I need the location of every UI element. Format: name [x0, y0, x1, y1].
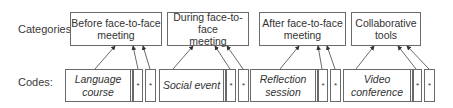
- arrow-language-course: [95, 46, 115, 69]
- code-line1: Reflection: [260, 73, 307, 86]
- arrow-star-3b: [327, 46, 335, 69]
- code-line2: session: [265, 86, 301, 99]
- category-line1: Collaborative: [355, 17, 416, 29]
- arrow-star-4a: [398, 46, 416, 69]
- code-placeholder-1b: *: [145, 69, 156, 102]
- category-before-meeting: Before face-to-face meeting: [70, 12, 162, 46]
- category-line2: meeting: [97, 29, 134, 41]
- arrow-star-4b: [407, 46, 429, 69]
- arrow-reflection-session: [280, 46, 299, 69]
- arrow-social-event: [173, 46, 193, 69]
- code-placeholder-2a: *: [226, 69, 236, 102]
- category-line1: Before face-to-face: [71, 17, 160, 29]
- arrow-video-conference: [356, 46, 374, 69]
- code-placeholder-1a: *: [133, 69, 143, 102]
- code-language-course: Language course: [65, 69, 133, 102]
- category-after-meeting: After face-to-face meeting: [259, 12, 346, 46]
- arrow-star-1a: [133, 46, 138, 69]
- code-line1: Language: [75, 73, 122, 86]
- code-reflection-session: Reflection session: [250, 69, 318, 102]
- arrow-star-2b: [227, 46, 243, 69]
- code-placeholder-3a: *: [318, 69, 328, 102]
- category-line2: meeting: [189, 35, 226, 47]
- code-placeholder-2b: *: [238, 69, 249, 102]
- code-line2: conference: [351, 86, 403, 99]
- code-video-conference: Video conference: [343, 69, 413, 102]
- code-social-event: Social event: [159, 69, 226, 102]
- arrow-star-3a: [318, 46, 322, 69]
- code-placeholder-4a: *: [413, 69, 422, 102]
- code-line2: course: [82, 86, 114, 99]
- code-placeholder-4b: *: [424, 69, 435, 102]
- category-line2: tools: [375, 29, 397, 41]
- code-line1: Social event: [163, 79, 220, 92]
- category-during-meeting: During face-to-face meeting: [167, 12, 249, 46]
- code-placeholder-3b: *: [330, 69, 341, 102]
- arrow-star-1b: [143, 46, 150, 69]
- category-collaborative-tools: Collaborative tools: [351, 12, 421, 46]
- category-line2: meeting: [284, 29, 321, 41]
- arrow-star-2a: [215, 46, 230, 69]
- category-line1: During face-to-face: [168, 11, 248, 35]
- category-line1: After face-to-face: [262, 17, 343, 29]
- code-line1: Video: [364, 73, 391, 86]
